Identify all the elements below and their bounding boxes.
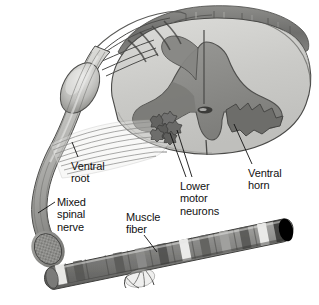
label-lower-motor-neurons: Lower motor neurons [180,180,219,217]
label-muscle-fiber: Muscle fiber [126,211,160,236]
label-ventral-root: Ventral root [71,160,105,185]
spinal-cord-illustration [0,0,319,305]
label-ventral-horn: Ventral horn [248,167,282,192]
anatomy-figure: Ventral root Mixed spinal nerve Muscle f… [0,0,319,305]
label-mixed-spinal-nerve: Mixed spinal nerve [57,196,86,233]
